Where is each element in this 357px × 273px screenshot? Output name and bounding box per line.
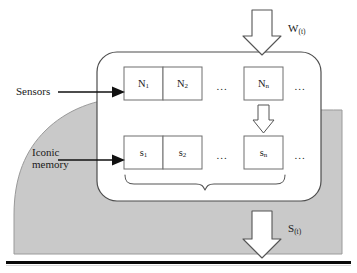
iconic-memory-label-line2: memory bbox=[32, 159, 69, 171]
sensation-output-label: S(t) bbox=[288, 223, 301, 236]
sensation-output-arrow-icon bbox=[243, 211, 281, 258]
sensors-label: Sensors bbox=[16, 86, 50, 98]
memory-row-ellipsis-end: ... bbox=[294, 149, 305, 161]
world-input-arrow-icon bbox=[243, 10, 281, 55]
sensor-cell-2-label: N2 bbox=[177, 78, 188, 91]
iconic-memory-label-line1: Iconic bbox=[32, 147, 69, 159]
diagram-canvas: N1 N2 Nn ... ... s1 s2 sn ... ... Sensor… bbox=[0, 0, 357, 273]
sensors-pointer-arrow-icon bbox=[58, 87, 125, 98]
memory-row-ellipsis-mid: ... bbox=[216, 149, 227, 161]
sensor-cell-1-label: N1 bbox=[138, 78, 149, 91]
sensor-row-ellipsis-end: ... bbox=[294, 80, 305, 92]
iconic-memory-label: Iconic memory bbox=[32, 147, 69, 170]
memory-cell-1-label: s1 bbox=[140, 147, 148, 160]
sensor-cell-n-label: Nn bbox=[258, 78, 269, 91]
memory-cell-n-label: sn bbox=[260, 147, 268, 160]
sensor-row-ellipsis-mid: ... bbox=[216, 80, 227, 92]
world-input-label: W(t) bbox=[288, 23, 305, 36]
buffer-layer bbox=[0, 0, 357, 273]
memory-cell-2-label: s2 bbox=[179, 147, 187, 160]
